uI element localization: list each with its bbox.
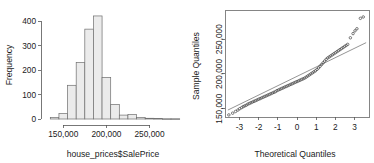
histogram-bar [50, 118, 59, 119]
histogram-x-axis-title: house_prices$SalePrice [67, 149, 160, 159]
qq-x-tick-label: -2 [255, 122, 263, 132]
histogram-bar [171, 119, 180, 120]
qq-x-tick-label: 3 [352, 122, 357, 132]
histogram-bar [76, 63, 85, 119]
qq-x-tick-label: 2 [333, 122, 338, 132]
qq-y-tick-label: 250,000 [214, 24, 224, 54]
histogram-x-tick-label: 200,000 [91, 129, 121, 139]
histogram-bar [111, 104, 120, 119]
qq-point [231, 112, 234, 115]
qq-x-tick-label: -3 [236, 122, 244, 132]
qq-x-axis-title: Theoretical Quantiles [254, 149, 335, 159]
histogram-x-tick-label: 150,000 [48, 129, 78, 139]
qq-y-axis-title: Sample Quantiles [191, 32, 201, 100]
histogram-y-tick-label: 0 [31, 114, 36, 124]
qq-point [346, 43, 349, 46]
qq-point [356, 28, 359, 31]
qq-point [228, 114, 231, 117]
qq-point [362, 16, 365, 19]
qq-reference-line [228, 43, 366, 110]
histogram-bar [162, 119, 171, 120]
histogram-y-tick-label: 300 [22, 41, 36, 51]
qq-point [349, 37, 352, 40]
histogram-bar [119, 115, 128, 119]
histogram-bar [68, 85, 77, 119]
histogram-bars [50, 16, 179, 119]
qq-tick-labels: -3-2-10123150,000200,000250,000 [214, 24, 357, 132]
histogram-bar [128, 115, 137, 119]
histogram-y-tick-label: 100 [22, 90, 36, 100]
qq-point [359, 17, 362, 20]
qq-x-tick-label: -1 [274, 122, 282, 132]
histogram-bar [102, 77, 111, 119]
histogram-bar [154, 119, 163, 120]
histogram-bar [85, 29, 94, 119]
histogram-bar [145, 118, 154, 119]
histogram-y-tick-label: 200 [22, 65, 36, 75]
histogram-bar [93, 16, 102, 119]
qq-plot-svg: -3-2-10123150,000200,000250,000 Theoreti… [187, 0, 374, 163]
qq-point [352, 32, 355, 35]
qq-x-tick-label: 1 [314, 122, 319, 132]
histogram-bar [137, 118, 146, 119]
qq-data-points [228, 16, 365, 116]
r-plot-figure: 0100200300400150,000200,000250,000 house… [0, 0, 374, 163]
qq-y-tick-label: 150,000 [214, 93, 224, 123]
histogram-panel: 0100200300400150,000200,000250,000 house… [0, 0, 187, 163]
qq-x-tick-label: 0 [295, 122, 300, 132]
qq-y-tick-label: 200,000 [214, 59, 224, 89]
histogram-y-axis-title: Frequency [4, 44, 14, 85]
histogram-y-tick-label: 400 [22, 16, 36, 26]
histogram-svg: 0100200300400150,000200,000250,000 house… [0, 0, 187, 163]
histogram-bar [59, 114, 68, 119]
qq-plot-panel: -3-2-10123150,000200,000250,000 Theoreti… [187, 0, 374, 163]
histogram-x-tick-label: 250,000 [135, 129, 165, 139]
